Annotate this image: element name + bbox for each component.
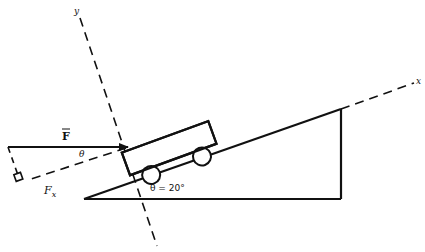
incline-diagram: x y F θ Fx θ = 20° <box>0 0 425 252</box>
force-component-label: Fx <box>43 184 57 199</box>
right-angle-marker <box>14 172 23 181</box>
x-axis <box>341 83 414 109</box>
force-angle-label: θ <box>79 149 85 159</box>
y-axis <box>80 18 157 246</box>
force-component-x <box>28 148 126 180</box>
force-label: F <box>62 130 70 143</box>
y-axis-label: y <box>73 6 80 16</box>
incline-angle-label: θ = 20° <box>150 183 185 193</box>
x-axis-label: x <box>416 76 421 86</box>
